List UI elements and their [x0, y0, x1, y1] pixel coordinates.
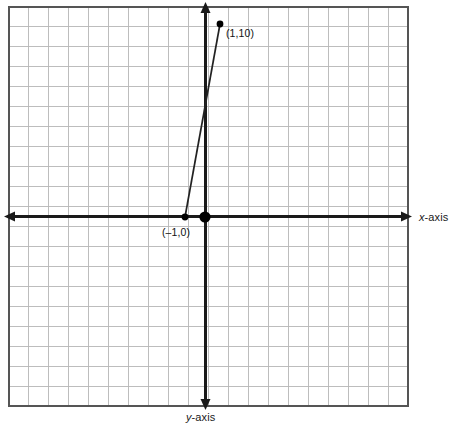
x-axis-label: x-axis [419, 211, 448, 223]
y-axis-label-suffix: -axis [192, 411, 216, 423]
origin-point [199, 211, 210, 222]
data-point-1-10 [217, 21, 224, 28]
y-axis-label: y-axis [186, 411, 215, 423]
point-label-neg1-0: (–1,0) [162, 226, 190, 238]
point-label-1-10: (1,10) [226, 27, 254, 39]
coordinate-plane-svg [0, 0, 457, 425]
x-axis-label-suffix: -axis [425, 211, 449, 223]
graph-figure: (1,10) (–1,0) x-axis y-axis [0, 0, 457, 425]
grid-lines [8, 6, 408, 406]
data-point-neg1-0 [182, 214, 189, 221]
